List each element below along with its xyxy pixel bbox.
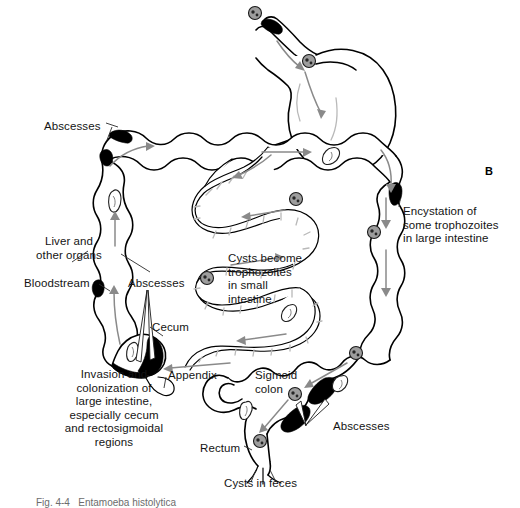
label-sigmoid-colon: Sigmoid colon <box>255 369 297 396</box>
label-cysts-become-trophozoites: Cysts become trophozoites in small intes… <box>228 252 302 306</box>
trophozoite-sigmoid-loop <box>240 401 253 419</box>
rectum-shape-right <box>267 434 270 475</box>
sigmoid-loop-inner <box>219 384 242 403</box>
label-abscesses-ascending-colon: Abscesses <box>128 277 185 291</box>
label-cecum: Cecum <box>152 321 189 335</box>
abscess-sigmoid-1 <box>308 377 337 404</box>
label-liver-and-other-organs: Liver and other organs <box>17 235 121 262</box>
transverse-colon-upper <box>112 131 396 156</box>
label-abscesses-hepatic-flexure: Abscesses <box>44 120 101 134</box>
arrow-descending-mid-head <box>381 288 391 297</box>
sigmoid-upper <box>228 356 390 382</box>
cyst-small-intestine <box>290 193 303 206</box>
cyst-ingested <box>249 7 262 20</box>
abscess-ascending-mid <box>92 280 104 297</box>
cyst-small-intestine-bend <box>201 272 214 285</box>
leader-abscesses-ascending <box>121 254 150 272</box>
trophozoite-ascending-colon <box>109 190 121 212</box>
arrow-sigmoid-head <box>304 379 314 388</box>
label-abscesses-sigmoid: Abscesses <box>333 420 390 434</box>
label-rectum: Rectum <box>200 442 240 456</box>
cyst-stomach <box>303 55 316 68</box>
figure-caption: Fig. 4-4 Entamoeba histolytica <box>36 497 176 508</box>
label-encystation: Encystation of some trophozoites in larg… <box>403 205 499 246</box>
panel-letter-b: B <box>485 165 493 177</box>
cyst-rectum <box>254 435 267 448</box>
label-invasion-and-colonization: Invasion and colonization of large intes… <box>34 368 194 449</box>
cyst-descending-colon-lower <box>350 347 363 360</box>
arrow-ascending-lower <box>114 292 120 344</box>
abscess-sigmoid-2 <box>281 405 310 432</box>
leader-abscesses-hepatic <box>106 123 118 127</box>
label-cysts-in-feces: Cysts in feces <box>224 477 297 491</box>
cyst-descending-colon <box>368 226 381 239</box>
label-bloodstream: Bloodstream <box>24 277 90 291</box>
